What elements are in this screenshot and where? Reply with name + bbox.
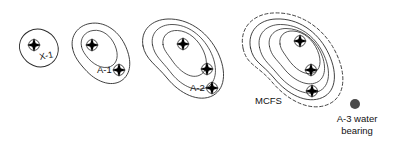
structure-label-a-2: A-2: [190, 82, 205, 93]
well-symbol: [305, 84, 319, 98]
boundary-mcfs-dashed: [242, 13, 343, 107]
well-symbol: [293, 34, 307, 48]
well-symbol: [85, 38, 99, 52]
structure-label-x-1: X-1: [38, 49, 54, 62]
structure-x-1: [14, 22, 65, 74]
legend-label-line-2: bearing: [341, 125, 373, 136]
contour-a-2-inner: [163, 30, 207, 76]
structure-label-a-1: A-1: [97, 64, 112, 75]
structure-label-mcfs: MCFS: [255, 95, 282, 106]
well-symbol: [27, 38, 41, 52]
well-symbol: [112, 63, 126, 77]
legend-dot-icon: [350, 99, 360, 109]
legend-a-3-water-bearing: A-3 water bearing: [337, 99, 378, 136]
well-symbol: [176, 37, 190, 51]
contour-mcfs-second: [259, 25, 329, 94]
contour-a-1-inner: [81, 30, 117, 67]
well-symbol: [304, 63, 318, 77]
structure-labels-layer: X-1 A-1 A-2 MCFS: [38, 49, 282, 106]
contour-map-figure: X-1 A-1 A-2 MCFS A-3 water bearing: [0, 0, 395, 144]
well-symbols-layer: [27, 34, 319, 98]
structure-mcfs: [242, 13, 343, 107]
legend-label-line-1: A-3 water: [337, 113, 378, 124]
contour-x-1-outer: [14, 22, 65, 74]
